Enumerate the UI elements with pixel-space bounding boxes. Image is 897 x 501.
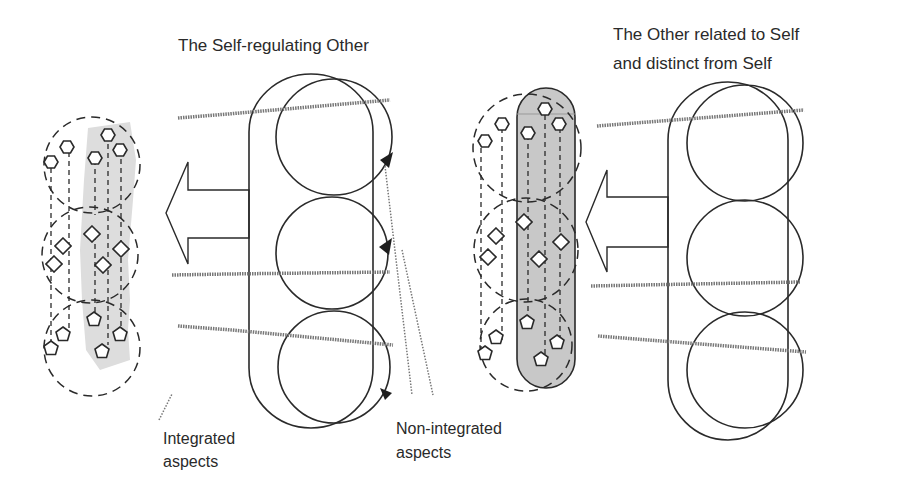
arrowhead-icon (379, 238, 392, 255)
capsule-circle-middle (687, 200, 803, 316)
title-other-related-line1: The Other related to Self (613, 25, 799, 45)
left-dashed-group (42, 117, 140, 396)
hexagon-icon (44, 156, 58, 168)
arrowhead-icon (380, 152, 393, 168)
capsule-circle-bottom (687, 312, 803, 428)
label-integrated-line2: aspects (163, 452, 218, 472)
title-self-regulating-other: The Self-regulating Other (178, 36, 369, 56)
diamond-icon (480, 249, 496, 265)
big-arrow-left-2 (586, 170, 668, 272)
label-integrated-line1: Integrated (163, 429, 235, 449)
capsule-circle-middle (276, 197, 388, 309)
arrowheads-capsule-1 (379, 152, 393, 400)
middle-dashed-group (473, 88, 581, 391)
hexagon-icon (478, 135, 492, 147)
hexagon-icon (538, 103, 552, 115)
hexagon-icon (113, 144, 127, 156)
hexagon-icon (552, 118, 566, 130)
hexagon-icon (495, 118, 509, 130)
other-related-capsule (668, 82, 803, 440)
capsule-circle-top (276, 79, 392, 195)
title-other-related-line2: and distinct from Self (613, 54, 772, 74)
diamond-icon (46, 256, 62, 272)
big-arrow-left-1 (166, 162, 249, 264)
pentagon-icon (56, 327, 70, 341)
dotted-arrows-capsule-1 (159, 100, 433, 420)
label-non-integrated-line1: Non-integrated (396, 419, 502, 439)
hexagon-icon (88, 152, 102, 164)
hexagon-icon (521, 127, 535, 139)
pentagon-icon (44, 341, 58, 355)
hexagon-icon (101, 129, 115, 141)
label-non-integrated-line2: aspects (396, 443, 451, 463)
self-regulating-capsule (249, 74, 392, 428)
capsule-circle-top (687, 85, 803, 201)
hexagon-icon (60, 141, 74, 153)
pentagon-icon (489, 330, 503, 344)
